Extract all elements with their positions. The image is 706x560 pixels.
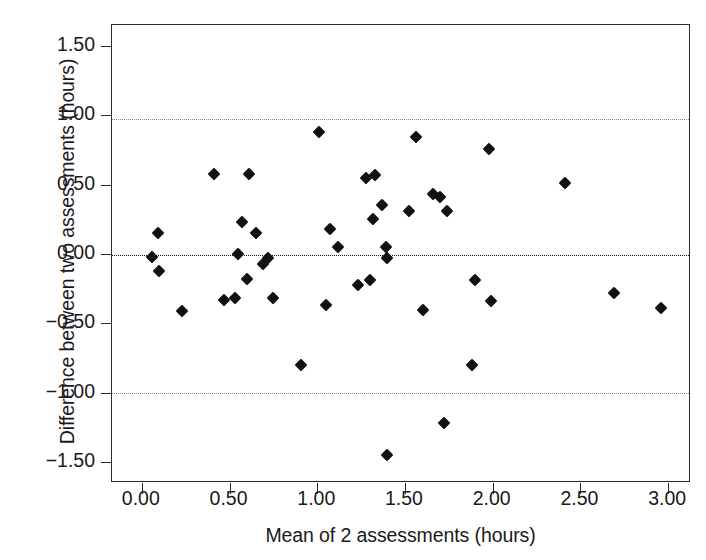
data-point: [232, 248, 245, 261]
data-point: [153, 264, 166, 277]
y-axis-tick-label: 0.50: [0, 174, 95, 194]
data-point: [364, 274, 377, 287]
x-axis-tick-label: 0.50: [189, 489, 269, 509]
data-point: [465, 359, 478, 372]
data-point: [228, 292, 241, 305]
data-point: [218, 293, 231, 306]
data-point: [441, 205, 454, 218]
x-axis-title: Mean of 2 assessments (hours): [111, 524, 690, 547]
data-point: [332, 241, 345, 254]
y-axis-tick-mark: [101, 323, 112, 324]
y-axis-tick-label: 0.00: [0, 243, 95, 263]
x-axis-tick-label: 2.00: [452, 489, 532, 509]
x-axis-tick-label: 0.00: [101, 489, 181, 509]
y-axis-tick-mark: [101, 393, 112, 394]
data-point: [655, 302, 668, 315]
data-point: [607, 286, 620, 299]
data-point: [295, 359, 308, 372]
data-point: [409, 131, 422, 144]
data-point: [235, 216, 248, 229]
data-point: [151, 227, 164, 240]
data-point: [313, 125, 326, 138]
y-axis-tick-label: 1.50: [0, 35, 95, 55]
data-point: [416, 303, 429, 316]
x-axis-tick-label: 2.50: [539, 489, 619, 509]
data-point: [351, 278, 364, 291]
y-axis-tick-mark: [101, 46, 112, 47]
y-axis-tick-mark: [101, 115, 112, 116]
data-point: [267, 292, 280, 305]
data-point: [376, 199, 389, 212]
y-axis-tick-mark: [101, 185, 112, 186]
data-point: [402, 205, 415, 218]
data-layer: [112, 25, 689, 481]
x-axis-tick-label: 1.00: [276, 489, 356, 509]
data-point: [176, 305, 189, 318]
data-point: [320, 299, 333, 312]
y-axis-tick-label: 1.00: [0, 104, 95, 124]
y-axis-tick-label: −1.50: [0, 451, 95, 471]
data-point: [381, 252, 394, 265]
x-axis-tick-label: 1.50: [364, 489, 444, 509]
data-point: [367, 213, 380, 226]
data-point: [241, 273, 254, 286]
data-point: [381, 449, 394, 462]
data-point: [485, 295, 498, 308]
bland-altman-scatter-figure: Difference between two assessments (hour…: [0, 0, 706, 560]
data-point: [483, 142, 496, 155]
y-axis-tick-label: −0.50: [0, 312, 95, 332]
data-point: [323, 223, 336, 236]
data-point: [242, 167, 255, 180]
data-point: [437, 417, 450, 430]
data-point: [146, 250, 159, 263]
x-axis-tick-label: 3.00: [627, 489, 706, 509]
y-axis-tick-mark: [101, 462, 112, 463]
data-point: [469, 274, 482, 287]
mean-difference-line: [112, 255, 689, 256]
plot-area: [111, 24, 690, 482]
data-point: [207, 167, 220, 180]
y-axis-tick-label: −1.00: [0, 382, 95, 402]
y-axis-tick-mark: [101, 254, 112, 255]
data-point: [249, 227, 262, 240]
lower-limit-of-agreement-line: [112, 393, 689, 394]
data-point: [558, 177, 571, 190]
upper-limit-of-agreement-line: [112, 119, 689, 120]
